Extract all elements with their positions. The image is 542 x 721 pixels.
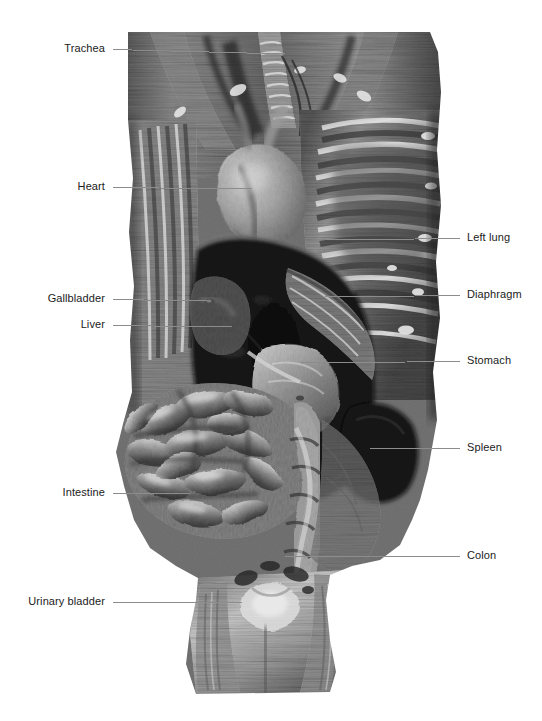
- specimen-photograph: [0, 0, 542, 721]
- label-left-lung: Left lung: [467, 231, 510, 243]
- label-colon: Colon: [467, 549, 496, 561]
- label-intestine: Intestine: [63, 486, 105, 498]
- label-stomach: Stomach: [467, 354, 511, 366]
- leader-line-intestine: [113, 494, 190, 495]
- leader-line-urinary-bladder: [113, 603, 242, 604]
- label-spleen: Spleen: [467, 441, 502, 453]
- label-gallbladder: Gallbladder: [48, 292, 105, 304]
- label-urinary-bladder: Urinary bladder: [28, 595, 105, 607]
- label-diaphragm: Diaphragm: [467, 288, 522, 300]
- label-trachea: Trachea: [64, 42, 105, 54]
- anatomy-figure: TracheaHeartGallbladderLiverIntestineUri…: [0, 0, 542, 721]
- leader-line-colon: [285, 557, 460, 558]
- specimen-svg: [0, 0, 542, 721]
- leader-line-spleen: [370, 449, 460, 450]
- label-heart: Heart: [78, 180, 105, 192]
- label-liver: Liver: [81, 318, 105, 330]
